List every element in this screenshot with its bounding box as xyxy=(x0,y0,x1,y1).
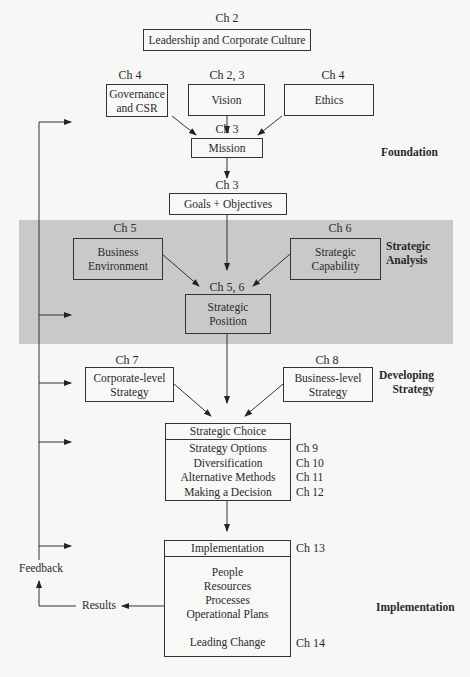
node-label-line1: Business-level xyxy=(294,371,361,385)
node-strategic-capability[interactable]: Strategic Capability xyxy=(290,238,381,280)
node-label-line2: Capability xyxy=(312,259,360,273)
node-label-line2: Environment xyxy=(88,259,148,273)
node-corporate-level-strategy[interactable]: Corporate-level Strategy xyxy=(85,367,174,402)
node-label-line2: Strategy xyxy=(110,385,148,399)
leading-change-item: Leading Change xyxy=(164,635,291,650)
chapter-label-governance: Ch 4 xyxy=(105,68,155,83)
node-business-level-strategy[interactable]: Business-level Strategy xyxy=(283,367,373,402)
list-item: Making a Decision xyxy=(165,485,291,500)
chapter-label-vision: Ch 2, 3 xyxy=(197,68,257,83)
node-label-line1: Corporate-level xyxy=(93,371,165,385)
stage-label-implementation: Implementation xyxy=(376,600,455,614)
stage-label-line2: Analysis xyxy=(386,253,430,267)
chapter-label: Ch 12 xyxy=(296,485,324,500)
list-item: Processes xyxy=(164,593,291,607)
chapter-label-goals: Ch 3 xyxy=(207,178,247,193)
chapter-label-corporate-strategy: Ch 7 xyxy=(112,353,142,368)
node-label: Goals + Objectives xyxy=(184,197,272,211)
chapter-label-leading-change: Ch 14 xyxy=(296,636,325,651)
chapter-label-ethics: Ch 4 xyxy=(308,68,358,83)
chapter-label-implementation: Ch 13 xyxy=(296,541,325,556)
feedback-label: Feedback xyxy=(19,562,63,574)
chapter-label: Ch 9 xyxy=(296,441,324,456)
strategic-choice-header: Strategic Choice xyxy=(166,424,290,440)
list-item: People xyxy=(164,565,291,579)
stage-label-foundation: Foundation xyxy=(381,145,438,159)
chapter-label-leadership: Ch 2 xyxy=(197,11,257,26)
node-vision[interactable]: Vision xyxy=(188,84,265,116)
chapter-label: Ch 11 xyxy=(296,470,324,485)
strategic-choice-chapters: Ch 9 Ch 10 Ch 11 Ch 12 xyxy=(296,441,324,499)
node-governance-csr[interactable]: Governance and CSR xyxy=(106,84,168,117)
implementation-header: Implementation xyxy=(165,541,290,557)
chapter-label-strategic-capability: Ch 6 xyxy=(320,221,360,236)
chapter-label-business-strategy: Ch 8 xyxy=(312,353,342,368)
list-item: Operational Plans xyxy=(164,607,291,621)
node-label-line2: Strategy xyxy=(309,385,347,399)
node-label: Vision xyxy=(212,93,242,107)
node-label-line1: Governance xyxy=(109,87,165,101)
list-item: Alternative Methods xyxy=(165,470,291,485)
chapter-label-strategic-position: Ch 5, 6 xyxy=(202,280,252,295)
node-label: Leadership and Corporate Culture xyxy=(149,33,306,47)
node-mission[interactable]: Mission xyxy=(191,138,263,158)
stage-label-line1: Developing xyxy=(379,368,434,382)
strategic-choice-items: Strategy Options Diversification Alterna… xyxy=(165,441,291,499)
stage-label-developing-strategy: Developing Strategy xyxy=(379,368,434,396)
node-ethics[interactable]: Ethics xyxy=(284,84,374,116)
implementation-items: People Resources Processes Operational P… xyxy=(164,565,291,621)
node-label-line2: and CSR xyxy=(116,101,157,115)
stage-label-line1: Strategic xyxy=(386,239,430,253)
node-strategic-position[interactable]: Strategic Position xyxy=(185,294,271,334)
node-label-line1: Strategic xyxy=(315,245,356,259)
node-business-environment[interactable]: Business Environment xyxy=(73,238,163,280)
chapter-label: Ch 10 xyxy=(296,456,324,471)
chapter-label-business-environment: Ch 5 xyxy=(105,221,145,236)
node-label-line1: Business xyxy=(98,245,139,259)
node-label-line2: Position xyxy=(209,314,247,328)
node-goals-objectives[interactable]: Goals + Objectives xyxy=(169,193,287,215)
list-item: Strategy Options xyxy=(165,441,291,456)
stage-label-strategic-analysis: Strategic Analysis xyxy=(386,239,430,267)
list-item: Resources xyxy=(164,579,291,593)
stage-label-line2: Strategy xyxy=(379,382,434,396)
node-label: Ethics xyxy=(315,93,344,107)
node-label-line1: Strategic xyxy=(208,300,249,314)
results-label: Results xyxy=(82,599,116,611)
node-leadership-corporate-culture[interactable]: Leadership and Corporate Culture xyxy=(143,29,311,51)
node-label: Mission xyxy=(208,141,245,155)
chapter-label-mission: Ch 3 xyxy=(207,122,247,137)
list-item: Diversification xyxy=(165,456,291,471)
